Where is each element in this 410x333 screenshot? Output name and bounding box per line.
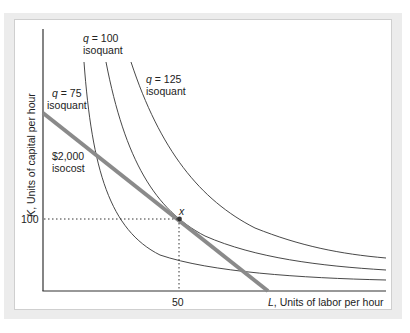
isocost-line: [43, 113, 268, 291]
y-axis-title: K, Units of capital per hour: [25, 93, 37, 217]
x-tick-50: 50: [172, 296, 184, 308]
q75-label-bottom: isoquant: [47, 99, 87, 111]
isocost-label-top: $2,000: [52, 150, 84, 162]
q100-label-top: q = 100: [83, 32, 118, 44]
q125-label-bottom: isoquant: [146, 85, 186, 97]
x-axis-rest: , Units of labor per hour: [274, 296, 384, 308]
q125-label-top: q = 125: [146, 73, 181, 85]
isocost-label-bottom: isocost: [52, 162, 85, 174]
q75-label-top: q = 75: [52, 87, 82, 99]
point-label: x: [178, 205, 185, 217]
y-axis-rest: , Units of capital per hour: [25, 93, 37, 210]
q100-label-bottom: isoquant: [83, 44, 123, 56]
x-axis-title: L, Units of labor per hour: [268, 296, 384, 308]
tangency-point: [177, 217, 182, 222]
isoquant-chart: x 100 50 L, Units of labor per hour K, U…: [0, 0, 410, 333]
